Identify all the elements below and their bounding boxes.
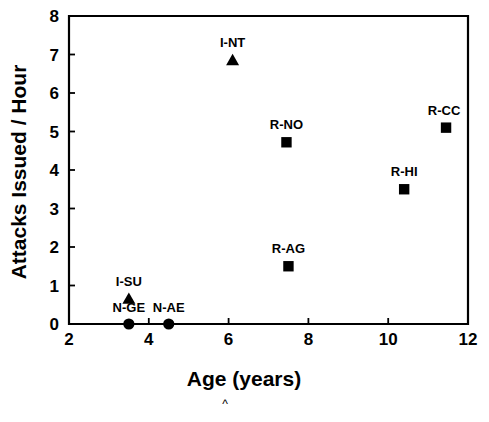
- data-points: I-NTR-CCR-NOR-HIR-AGI-SUN-GEN-AE: [113, 35, 461, 329]
- data-point: R-AG: [272, 241, 305, 271]
- data-point: R-NO: [270, 117, 303, 147]
- y-tick-label: 7: [50, 46, 59, 65]
- chart-canvas: 24681012 012345678 I-NTR-CCR-NOR-HIR-AGI…: [0, 0, 489, 422]
- marker-circle: [163, 318, 174, 329]
- data-point-label: R-AG: [272, 241, 305, 256]
- x-tick-label: 4: [144, 330, 154, 349]
- x-tick-label: 10: [379, 330, 398, 349]
- data-point-label: R-NO: [270, 117, 303, 132]
- data-point: N-GE: [113, 300, 146, 330]
- x-axis-title: Age (years): [187, 367, 301, 390]
- x-tick-label: 12: [459, 330, 478, 349]
- data-point-label: I-NT: [220, 35, 245, 50]
- marker-square: [281, 137, 291, 147]
- y-tick-labels: 012345678: [50, 7, 60, 334]
- data-point-label: N-AE: [153, 300, 185, 315]
- data-point-label: R-CC: [428, 103, 461, 118]
- data-point-label: R-HI: [391, 164, 418, 179]
- marker-square: [283, 261, 293, 271]
- data-point-label: N-GE: [113, 300, 146, 315]
- marker-circle: [123, 318, 134, 329]
- x-tick-label: 2: [64, 330, 73, 349]
- data-point-label: I-SU: [116, 274, 142, 289]
- data-point: R-CC: [428, 103, 461, 133]
- y-tick-label: 5: [50, 123, 59, 142]
- x-tick-labels: 24681012: [64, 330, 477, 349]
- y-axis-title: Attacks Issued / Hour: [7, 65, 30, 280]
- marker-square: [441, 122, 451, 132]
- x-tick-label: 6: [224, 330, 233, 349]
- x-tick-label: 8: [304, 330, 313, 349]
- y-tick-label: 1: [50, 277, 59, 296]
- y-tick-label: 4: [50, 161, 60, 180]
- data-point: I-NT: [220, 35, 245, 65]
- scatter-chart: 24681012 012345678 I-NTR-CCR-NOR-HIR-AGI…: [0, 0, 489, 422]
- marker-square: [399, 184, 409, 194]
- data-point: R-HI: [391, 164, 418, 194]
- marker-triangle: [226, 54, 239, 65]
- data-point: N-AE: [153, 300, 185, 330]
- y-tick-label: 8: [50, 7, 59, 26]
- caret-annotation: ^: [222, 397, 228, 411]
- y-tick-label: 6: [50, 84, 59, 103]
- y-tick-label: 2: [50, 238, 59, 257]
- y-tick-label: 0: [50, 315, 59, 334]
- y-tick-label: 3: [50, 200, 59, 219]
